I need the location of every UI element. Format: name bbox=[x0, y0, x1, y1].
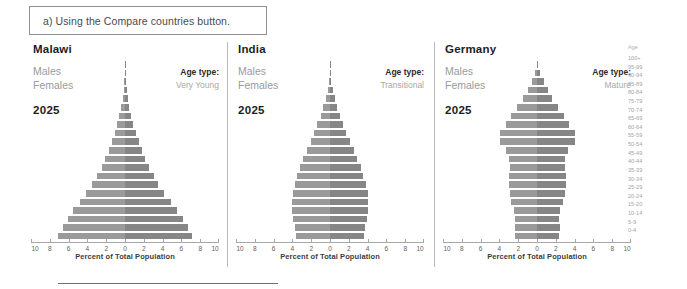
pyramid-bar-females bbox=[330, 70, 331, 77]
age-legend-item: 100+ bbox=[628, 54, 668, 63]
pyramid-bar-row bbox=[236, 172, 424, 181]
pyramid-bar-females bbox=[125, 95, 128, 102]
pyramid-bar-females bbox=[125, 147, 142, 154]
pyramid-bar-males bbox=[515, 216, 537, 223]
x-axis-tick-label: 2 bbox=[347, 245, 351, 252]
pyramid-bar-males bbox=[509, 173, 537, 180]
panel-divider bbox=[434, 42, 435, 267]
age-legend-item: 90-94 bbox=[628, 71, 668, 80]
pyramid-bar-row bbox=[236, 77, 424, 86]
age-legend-item: 80-84 bbox=[628, 88, 668, 97]
pyramid-bar-females bbox=[330, 173, 363, 180]
caption-text: a) Using the Compare countries button. bbox=[30, 15, 230, 27]
country-panel-malawi[interactable]: Malawi Males Females 2025 Age type: Very… bbox=[22, 40, 227, 275]
pyramid-bar-males bbox=[500, 138, 537, 145]
pyramid-bar-males bbox=[292, 207, 330, 214]
population-pyramid: 1086420246810 Percent of Total Populatio… bbox=[236, 48, 424, 255]
pyramid-bar-females bbox=[537, 70, 540, 77]
pyramid-bar-row bbox=[236, 86, 424, 95]
x-axis-tick-label: 2 bbox=[554, 245, 558, 252]
pyramid-bar-males bbox=[317, 121, 330, 128]
pyramid-bar-row bbox=[236, 120, 424, 129]
x-axis-tick-label: 4 bbox=[161, 245, 165, 252]
pyramid-bar-males bbox=[292, 199, 330, 206]
pyramid-bar-females bbox=[537, 156, 565, 163]
pyramid-bar-females bbox=[537, 207, 560, 214]
pyramid-bar-row bbox=[443, 129, 631, 138]
pyramid-bar-females bbox=[330, 121, 343, 128]
pyramid-bar-males bbox=[105, 156, 125, 163]
age-legend-item: 15-20 bbox=[628, 200, 668, 209]
pyramid-bar-males bbox=[511, 113, 537, 120]
pyramid-bar-row bbox=[443, 206, 631, 215]
age-legend-item: 55-59 bbox=[628, 131, 668, 140]
pyramid-bar-females bbox=[330, 147, 354, 154]
age-legend-item: 10-14 bbox=[628, 209, 668, 218]
x-axis-tick-label: 6 bbox=[385, 245, 389, 252]
age-legend-item: 40-44 bbox=[628, 157, 668, 166]
pyramid-bar-males bbox=[323, 104, 330, 111]
x-axis-tick-label: 6 bbox=[272, 245, 276, 252]
screenshot-root: a) Using the Compare countries button. M… bbox=[0, 0, 687, 289]
x-axis-title: Percent of Total Population bbox=[236, 252, 424, 261]
pyramid-bar-males bbox=[510, 190, 537, 197]
x-axis-tick-label: 10 bbox=[416, 245, 423, 252]
pyramid-bar-row bbox=[443, 172, 631, 181]
pyramid-bar-females bbox=[125, 216, 183, 223]
x-axis-tick-label: 4 bbox=[291, 245, 295, 252]
pyramid-bar-females bbox=[537, 224, 560, 231]
population-pyramid: 1086420246810 Percent of Total Populatio… bbox=[443, 48, 631, 255]
pyramid-bar-row bbox=[31, 146, 219, 155]
pyramid-bar-females bbox=[537, 130, 575, 137]
x-axis-tick-label: 8 bbox=[403, 245, 407, 252]
pyramid-bar-females bbox=[125, 138, 139, 145]
pyramid-bars bbox=[443, 60, 631, 252]
pyramid-bar-row bbox=[31, 155, 219, 164]
x-axis-tick-label: 8 bbox=[610, 245, 614, 252]
x-axis-tick-label: 2 bbox=[142, 245, 146, 252]
pyramid-bar-row bbox=[31, 60, 219, 69]
pyramid-bar-females bbox=[330, 95, 335, 102]
pyramid-bar-females bbox=[330, 224, 365, 231]
pyramid-bar-row bbox=[31, 215, 219, 224]
pyramid-bar-females bbox=[125, 207, 177, 214]
age-legend-item: 5-9 bbox=[628, 218, 668, 227]
pyramid-bar-males bbox=[500, 130, 537, 137]
age-legend-item: 20-24 bbox=[628, 192, 668, 201]
pyramid-bar-row bbox=[31, 206, 219, 215]
age-legend-item: 50-54 bbox=[628, 140, 668, 149]
country-panel-germany[interactable]: Germany Males Females 2025 Age type: Mat… bbox=[434, 40, 639, 275]
pyramid-bar-females bbox=[125, 173, 154, 180]
pyramid-bar-males bbox=[295, 224, 330, 231]
pyramid-bar-females bbox=[330, 78, 331, 85]
pyramid-bar-row bbox=[443, 94, 631, 103]
pyramid-bar-females bbox=[537, 173, 566, 180]
pyramid-bar-males bbox=[86, 190, 125, 197]
pyramid-bar-row bbox=[443, 146, 631, 155]
age-legend-item: 95-99 bbox=[628, 63, 668, 72]
pyramid-bar-males bbox=[73, 207, 125, 214]
country-panel-india[interactable]: India Males Females 2025 Age type: Trans… bbox=[227, 40, 432, 275]
x-axis-tick-label: 4 bbox=[498, 245, 502, 252]
pyramid-bar-row bbox=[31, 180, 219, 189]
pyramid-bar-males bbox=[117, 121, 125, 128]
pyramid-bar-males bbox=[68, 216, 125, 223]
pyramid-bar-row bbox=[236, 155, 424, 164]
pyramid-bar-females bbox=[330, 181, 366, 188]
pyramid-bar-females bbox=[125, 181, 158, 188]
pyramid-bar-males bbox=[115, 130, 125, 137]
pyramid-bar-row bbox=[443, 215, 631, 224]
pyramid-bars bbox=[31, 60, 219, 252]
pyramid-bar-row bbox=[31, 223, 219, 232]
age-legend-item: 85-89 bbox=[628, 80, 668, 89]
pyramid-bar-females bbox=[537, 190, 565, 197]
pyramid-bar-females bbox=[125, 199, 171, 206]
pyramid-bar-row bbox=[443, 120, 631, 129]
pyramid-bar-row bbox=[31, 69, 219, 78]
x-axis-tick-label: 2 bbox=[104, 245, 108, 252]
pyramid-bar-row bbox=[236, 137, 424, 146]
pyramid-bar-males bbox=[297, 173, 330, 180]
bottom-rule bbox=[58, 283, 278, 284]
pyramid-bar-males bbox=[509, 156, 537, 163]
pyramid-bar-females bbox=[330, 104, 337, 111]
